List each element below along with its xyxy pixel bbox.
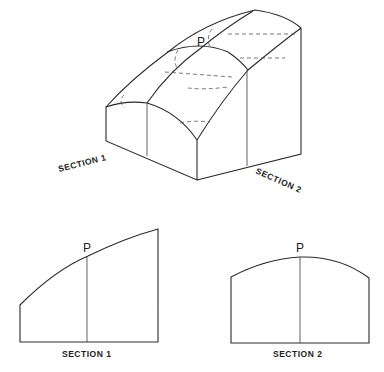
diagram-canvas: P SECTION 1 SECTION 2 P SECTION 1 P SECT…	[0, 0, 384, 372]
section2-iso-label: SECTION 2	[254, 166, 303, 195]
point-p-label: P	[197, 35, 205, 49]
isometric-block: P SECTION 1 SECTION 2	[57, 10, 303, 195]
section1-profile: P SECTION 1	[20, 229, 158, 359]
section2-profile: P SECTION 2	[231, 241, 369, 359]
section2-point-p: P	[296, 241, 304, 255]
section1-iso-label: SECTION 1	[57, 152, 107, 174]
section2-caption: SECTION 2	[273, 349, 322, 359]
section1-point-p: P	[83, 241, 91, 255]
section1-caption: SECTION 1	[62, 349, 111, 359]
